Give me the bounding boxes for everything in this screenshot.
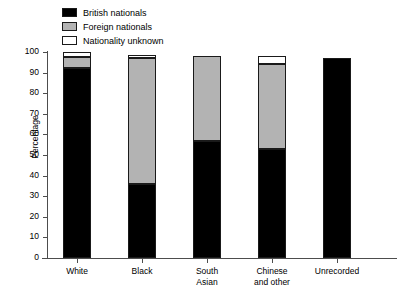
y-tick-label-60: 60 (30, 128, 39, 139)
chart-legend: British nationals Foreign nationals Nati… (62, 6, 262, 48)
bar-segment-foreign-nationals[interactable] (258, 64, 286, 148)
x-tick-1 (142, 258, 143, 263)
bar-segment-british-nationals[interactable] (323, 58, 351, 258)
x-tick-0 (77, 258, 78, 263)
bar-south-asian[interactable] (193, 52, 221, 258)
y-tick-90: 90 (43, 73, 47, 74)
legend-label-nationality-unknown: Nationality unknown (83, 36, 164, 46)
y-tick-0: 0 (43, 258, 47, 259)
y-tick-10: 10 (43, 237, 47, 238)
x-label-unrecorded: Unrecorded (297, 266, 377, 277)
bar-segment-nationality-unknown[interactable] (258, 56, 286, 64)
y-tick-60: 60 (43, 134, 47, 135)
y-tick-label-30: 30 (30, 190, 39, 201)
legend-swatch-foreign-nationals (62, 22, 77, 31)
stacked-bar-chart: British nationals Foreign nationals Nati… (0, 0, 403, 302)
y-tick-label-40: 40 (30, 170, 39, 181)
legend-item-british-nationals: British nationals (62, 6, 262, 19)
x-label-line: Unrecorded (297, 266, 377, 277)
y-tick-70: 70 (43, 114, 47, 115)
y-tick-50: 50 (43, 155, 47, 156)
legend-label-foreign-nationals: Foreign nationals (83, 22, 152, 32)
x-label-line: and other (232, 277, 312, 288)
y-tick-label-90: 90 (30, 67, 39, 78)
bar-segment-nationality-unknown[interactable] (128, 55, 156, 58)
y-tick-30: 30 (43, 196, 47, 197)
y-tick-label-50: 50 (30, 149, 39, 160)
legend-swatch-british-nationals (62, 8, 77, 17)
x-tick-2 (207, 258, 208, 263)
x-tick-3 (272, 258, 273, 263)
y-tick-20: 20 (43, 217, 47, 218)
y-tick-label-10: 10 (30, 231, 39, 242)
bar-segment-nationality-unknown[interactable] (63, 52, 91, 57)
y-tick-80: 80 (43, 93, 47, 94)
y-tick-label-70: 70 (30, 108, 39, 119)
y-tick-40: 40 (43, 176, 47, 177)
plot-area: Percentage 0102030405060708090100 WhiteB… (47, 52, 397, 258)
legend-swatch-nationality-unknown (62, 36, 77, 45)
y-tick-label-80: 80 (30, 87, 39, 98)
bar-segment-foreign-nationals[interactable] (128, 58, 156, 184)
bar-segment-foreign-nationals[interactable] (63, 57, 91, 68)
legend-item-foreign-nationals: Foreign nationals (62, 20, 262, 33)
bar-segment-foreign-nationals[interactable] (193, 56, 221, 140)
bar-black[interactable] (128, 52, 156, 258)
y-tick-label-100: 100 (25, 46, 39, 57)
x-axis-line (42, 258, 397, 259)
bar-white[interactable] (63, 52, 91, 258)
y-tick-label-0: 0 (34, 252, 39, 263)
y-axis-line (47, 51, 48, 259)
bar-segment-british-nationals[interactable] (258, 149, 286, 258)
bar-segment-british-nationals[interactable] (63, 68, 91, 258)
y-tick-100: 100 (43, 52, 47, 53)
bar-chinese-and-other[interactable] (258, 52, 286, 258)
legend-item-nationality-unknown: Nationality unknown (62, 34, 262, 47)
bar-unrecorded[interactable] (323, 52, 351, 258)
y-tick-label-20: 20 (30, 211, 39, 222)
bar-segment-british-nationals[interactable] (193, 141, 221, 258)
legend-label-british-nationals: British nationals (83, 8, 147, 18)
x-tick-4 (337, 258, 338, 263)
bar-segment-british-nationals[interactable] (128, 184, 156, 258)
